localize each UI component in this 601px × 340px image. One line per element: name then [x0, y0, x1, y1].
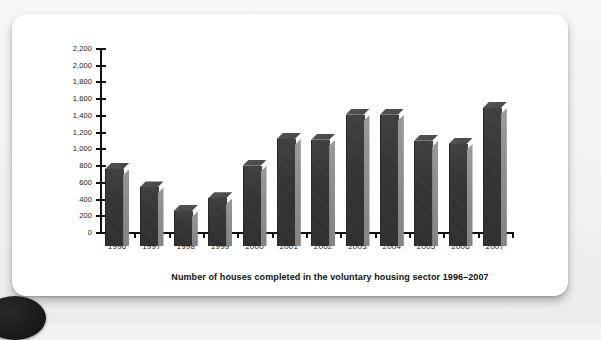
bar-top-face	[449, 138, 473, 144]
bar-top-face	[483, 102, 507, 108]
bar-side-face	[398, 115, 404, 246]
bar-side-face	[295, 139, 301, 246]
bar-front-face	[140, 187, 159, 246]
bar-side-face	[123, 169, 129, 246]
bar	[311, 140, 329, 246]
bar	[483, 108, 501, 246]
x-axis-tick	[306, 232, 308, 238]
x-axis-tick	[272, 232, 274, 238]
y-axis-tick-label: 1,600	[73, 94, 92, 103]
bar-top-face	[243, 160, 267, 166]
x-axis-tick	[340, 232, 342, 238]
bar	[140, 187, 158, 246]
bar	[346, 115, 364, 246]
bar-front-face	[243, 166, 262, 246]
bar-side-face	[226, 198, 232, 246]
figure-caption: Number of houses completed in the volunt…	[100, 272, 560, 282]
bar-top-face	[277, 133, 301, 139]
bar-front-face	[483, 108, 502, 246]
x-axis-tick	[375, 232, 377, 238]
x-axis-tick	[478, 232, 480, 238]
bar-side-face	[329, 140, 335, 246]
x-axis-tick	[409, 232, 411, 238]
y-axis-tick-label: 2,000	[73, 60, 92, 69]
bar	[277, 139, 295, 246]
bar	[449, 144, 467, 246]
bar-side-face	[364, 115, 370, 246]
bar-side-face	[432, 141, 438, 246]
y-axis-tick-label: 800	[79, 161, 92, 170]
bar-top-face	[174, 205, 198, 211]
y-axis-tick	[96, 115, 106, 117]
bar-top-face	[380, 109, 404, 115]
bar-front-face	[380, 115, 399, 246]
bar	[208, 198, 226, 246]
bar-front-face	[449, 144, 468, 246]
bar-side-face	[192, 211, 198, 246]
bar-front-face	[277, 139, 296, 246]
y-axis-tick-label: 200	[79, 211, 92, 220]
bar-front-face	[346, 115, 365, 246]
bar	[243, 166, 261, 246]
y-axis-tick	[96, 65, 106, 67]
x-axis-tick	[169, 232, 171, 238]
plot-area: 02004006008001,0001,2001,4001,6001,8002,…	[100, 48, 512, 246]
x-axis-tick	[237, 232, 239, 238]
bar-top-face	[105, 163, 129, 169]
y-axis-tick-label: 2,200	[73, 44, 92, 53]
y-axis-tick	[96, 48, 106, 50]
bar-side-face	[158, 187, 164, 246]
bar-top-face	[346, 109, 370, 115]
y-axis-tick	[96, 148, 106, 150]
y-axis-tick	[96, 165, 106, 167]
y-axis-tick-label: 400	[79, 194, 92, 203]
bar-side-face	[467, 144, 473, 246]
y-axis-tick-label: 0	[88, 228, 92, 237]
bar-front-face	[208, 198, 227, 246]
bar-side-face	[501, 108, 507, 246]
bar-chart: 02004006008001,0001,2001,4001,6001,8002,…	[12, 14, 568, 296]
y-axis-tick-label: 600	[79, 177, 92, 186]
y-axis-tick	[96, 98, 106, 100]
bar	[414, 141, 432, 246]
bar-front-face	[105, 169, 124, 246]
y-axis-tick	[96, 81, 106, 83]
bar	[105, 169, 123, 246]
bar-top-face	[311, 134, 335, 140]
bar-front-face	[311, 140, 330, 246]
x-axis-tick	[203, 232, 205, 238]
x-axis-tick	[512, 232, 514, 238]
bar-side-face	[261, 166, 267, 246]
y-axis-tick-label: 1,000	[73, 144, 92, 153]
x-axis-tick	[134, 232, 136, 238]
y-axis-tick-label: 1,800	[73, 77, 92, 86]
y-axis	[100, 48, 102, 232]
bar-top-face	[140, 181, 164, 187]
y-axis-tick-label: 1,200	[73, 127, 92, 136]
y-axis-tick-label: 1,400	[73, 110, 92, 119]
bar-front-face	[174, 211, 193, 246]
x-axis-tick	[443, 232, 445, 238]
bar-top-face	[208, 192, 232, 198]
bar-top-face	[414, 135, 438, 141]
y-axis-tick	[96, 132, 106, 134]
bar	[174, 211, 192, 246]
bar	[380, 115, 398, 246]
bar-front-face	[414, 141, 433, 246]
